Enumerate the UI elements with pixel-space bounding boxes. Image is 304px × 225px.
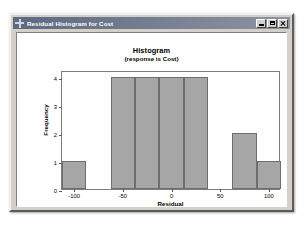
plot-inner: 01234-100-50050100 [62, 72, 279, 189]
histogram-bar [111, 77, 135, 189]
chart-client-area: Histogram (response is Cost) Frequency R… [16, 32, 287, 207]
y-axis-tick [59, 163, 62, 164]
x-axis-title: Residual [61, 200, 280, 207]
histogram-bar [257, 161, 281, 189]
x-axis-tick [123, 189, 124, 192]
y-axis-tick [59, 79, 62, 80]
histogram-bar [232, 133, 256, 189]
y-axis-tick [59, 135, 62, 136]
histogram-bar [159, 77, 183, 189]
window-controls [256, 19, 288, 28]
histogram-chart: Histogram (response is Cost) Frequency R… [17, 33, 286, 206]
y-axis-tick-label: 1 [54, 160, 57, 166]
x-axis-tick-label: 100 [264, 193, 274, 199]
x-axis-tick [269, 189, 270, 192]
x-axis-tick [172, 189, 173, 192]
x-axis-tick-label: -100 [68, 193, 80, 199]
y-axis-title: Frequency [42, 104, 49, 135]
x-axis-tick [220, 189, 221, 192]
histogram-bar [135, 77, 159, 189]
chart-subtitle: (response is Cost) [17, 55, 286, 62]
y-axis-tick-label: 0 [54, 188, 57, 194]
x-axis-tick-label: -50 [119, 193, 127, 199]
minimize-button[interactable] [256, 19, 266, 28]
close-button[interactable] [278, 19, 288, 28]
x-axis-tick-label: 50 [217, 193, 223, 199]
window-title: Residual Histogram for Cost [27, 20, 256, 27]
y-axis-tick-label: 3 [54, 104, 57, 110]
maximize-button[interactable] [267, 19, 277, 28]
y-axis-tick [59, 107, 62, 108]
plot-area: 01234-100-50050100 [61, 71, 280, 190]
x-axis-tick [74, 189, 75, 192]
y-axis-tick-label: 4 [54, 76, 57, 82]
y-axis-tick-label: 2 [54, 132, 57, 138]
chart-window: Residual Histogram for Cost Histogram (r… [9, 13, 294, 212]
window-title-bar[interactable]: Residual Histogram for Cost [13, 17, 290, 29]
x-axis-tick-label: 0 [170, 193, 173, 199]
crosshair-icon [15, 19, 24, 28]
chart-title: Histogram [17, 46, 286, 55]
y-axis-tick [59, 191, 62, 192]
histogram-bar [184, 77, 208, 189]
histogram-bar [62, 161, 86, 189]
